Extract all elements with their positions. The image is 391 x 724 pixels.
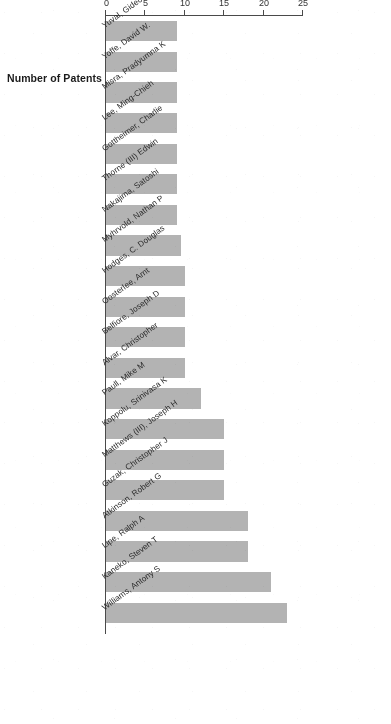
tick-label-text: 0 xyxy=(104,0,109,8)
bar-row xyxy=(106,603,303,623)
tick-label-text: 15 xyxy=(219,0,229,8)
tick-label-text: 25 xyxy=(298,0,308,8)
tick-label: 20 xyxy=(244,0,284,8)
chart-plot-area: 2520151050 Williams, Antony SKaneko, Ste… xyxy=(0,0,391,724)
tick-label: 25 xyxy=(283,0,323,8)
tick-label-text: 10 xyxy=(180,0,190,8)
tick-mark xyxy=(263,10,264,16)
value-axis-title: Number of Patents xyxy=(0,72,102,84)
value-axis-line xyxy=(105,15,303,16)
tick-label: 10 xyxy=(165,0,205,8)
tick-mark xyxy=(223,10,224,16)
tick-mark xyxy=(144,10,145,16)
tick-label: 0 xyxy=(86,0,126,8)
tick-mark xyxy=(105,10,106,16)
bars-container xyxy=(106,16,303,628)
tick-mark xyxy=(184,10,185,16)
value-axis-title-text: Number of Patents xyxy=(7,72,102,84)
tick-mark xyxy=(302,10,303,16)
rotated-chart-figure: 2520151050 Williams, Antony SKaneko, Ste… xyxy=(0,0,391,724)
tick-label-text: 20 xyxy=(259,0,269,8)
tick-label: 15 xyxy=(204,0,244,8)
bar xyxy=(106,603,287,623)
